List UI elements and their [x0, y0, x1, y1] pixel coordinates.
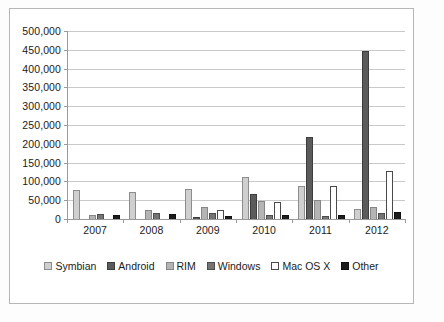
legend-label: Mac OS X: [282, 261, 330, 272]
legend-swatch-other-icon: [341, 262, 349, 270]
y-tick-label: 100,000: [22, 175, 61, 187]
legend-item-rim[interactable]: RIM: [166, 261, 196, 272]
y-tick-label: 50,000: [28, 194, 61, 206]
bar-group-inner: [237, 31, 293, 219]
bar-symbian-2011[interactable]: [298, 186, 305, 219]
bar-macosx-2010[interactable]: [274, 202, 281, 219]
bar-android-2011[interactable]: [306, 137, 313, 219]
legend-item-windows[interactable]: Windows: [207, 261, 261, 272]
x-tick-label-2008: 2008: [140, 224, 164, 236]
bar-macosx-2012[interactable]: [386, 171, 393, 219]
bar-group: [68, 31, 124, 219]
legend-label: RIM: [177, 261, 196, 272]
y-tick-label: 300,000: [22, 100, 61, 112]
chart-page: 500,000450,000400,000350,000300,000250,0…: [0, 0, 444, 322]
bar-group: [350, 31, 406, 219]
x-tick-mark: [292, 219, 293, 223]
legend-swatch-symbian-icon: [44, 262, 52, 270]
bar-group-inner: [68, 31, 124, 219]
bar-group: [181, 31, 237, 219]
y-tick-label: 200,000: [22, 138, 61, 150]
legend-swatch-android-icon: [107, 262, 115, 270]
legend-item-symbian[interactable]: Symbian: [44, 261, 96, 272]
bar-rim-2008[interactable]: [145, 210, 152, 219]
legend-label: Symbian: [55, 261, 96, 272]
legend-label: Other: [352, 261, 378, 272]
bar-group: [293, 31, 349, 219]
plot-wrapper: 500,000450,000400,000350,000300,000250,0…: [10, 9, 413, 303]
x-tick-label-2007: 2007: [83, 224, 107, 236]
bar-group-inner: [350, 31, 406, 219]
plot-area: 500,000450,000400,000350,000300,000250,0…: [67, 31, 405, 219]
bar-symbian-2012[interactable]: [354, 209, 361, 219]
y-tick-label: 500,000: [22, 25, 61, 37]
bar-group-inner: [181, 31, 237, 219]
chart-frame: 500,000450,000400,000350,000300,000250,0…: [9, 8, 414, 304]
bar-rim-2012[interactable]: [370, 207, 377, 219]
legend-label: Windows: [218, 261, 261, 272]
bar-symbian-2008[interactable]: [129, 192, 136, 219]
bar-android-2010[interactable]: [250, 194, 257, 219]
x-tick-label-2010: 2010: [252, 224, 276, 236]
bar-macosx-2011[interactable]: [330, 186, 337, 219]
chart-legend: SymbianAndroidRIMWindowsMac OS XOther: [10, 261, 413, 272]
legend-swatch-rim-icon: [166, 262, 174, 270]
x-tick-label-2009: 2009: [196, 224, 220, 236]
x-tick-mark: [123, 219, 124, 223]
bar-symbian-2009[interactable]: [185, 189, 192, 219]
legend-swatch-macosx-icon: [271, 262, 279, 270]
bar-group-inner: [124, 31, 180, 219]
y-tick-label: 400,000: [22, 63, 61, 75]
bar-rim-2009[interactable]: [201, 207, 208, 219]
x-tick-label-2012: 2012: [365, 224, 389, 236]
legend-item-other[interactable]: Other: [341, 261, 378, 272]
legend-swatch-windows-icon: [207, 262, 215, 270]
bar-group: [237, 31, 293, 219]
y-tick-label: 150,000: [22, 157, 61, 169]
x-tick-mark: [180, 219, 181, 223]
bar-group-inner: [293, 31, 349, 219]
x-tick-mark: [405, 219, 406, 223]
bar-android-2012[interactable]: [362, 51, 369, 219]
legend-label: Android: [118, 261, 154, 272]
bar-symbian-2010[interactable]: [242, 177, 249, 219]
legend-item-macosx[interactable]: Mac OS X: [271, 261, 330, 272]
y-tick-label: 450,000: [22, 44, 61, 56]
bar-group: [124, 31, 180, 219]
bar-rim-2011[interactable]: [314, 200, 321, 219]
y-tick-label: 0: [55, 213, 61, 225]
x-tick-label-2011: 2011: [309, 224, 332, 236]
bar-rim-2010[interactable]: [258, 201, 265, 219]
x-tick-mark: [349, 219, 350, 223]
y-tick-label: 250,000: [22, 119, 61, 131]
x-tick-mark: [67, 219, 68, 223]
y-tick-label: 350,000: [22, 81, 61, 93]
legend-item-android[interactable]: Android: [107, 261, 154, 272]
x-tick-mark: [236, 219, 237, 223]
bar-macosx-2009[interactable]: [217, 210, 224, 219]
bar-symbian-2007[interactable]: [73, 190, 80, 219]
bar-other-2012[interactable]: [394, 212, 401, 219]
